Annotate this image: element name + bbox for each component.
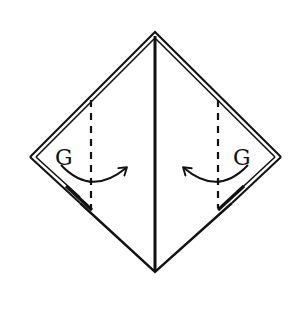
diagram-canvas: G G <box>0 0 300 329</box>
right-label: G <box>233 145 251 170</box>
left-label: G <box>55 145 73 170</box>
origami-diagram: G G <box>0 0 300 329</box>
